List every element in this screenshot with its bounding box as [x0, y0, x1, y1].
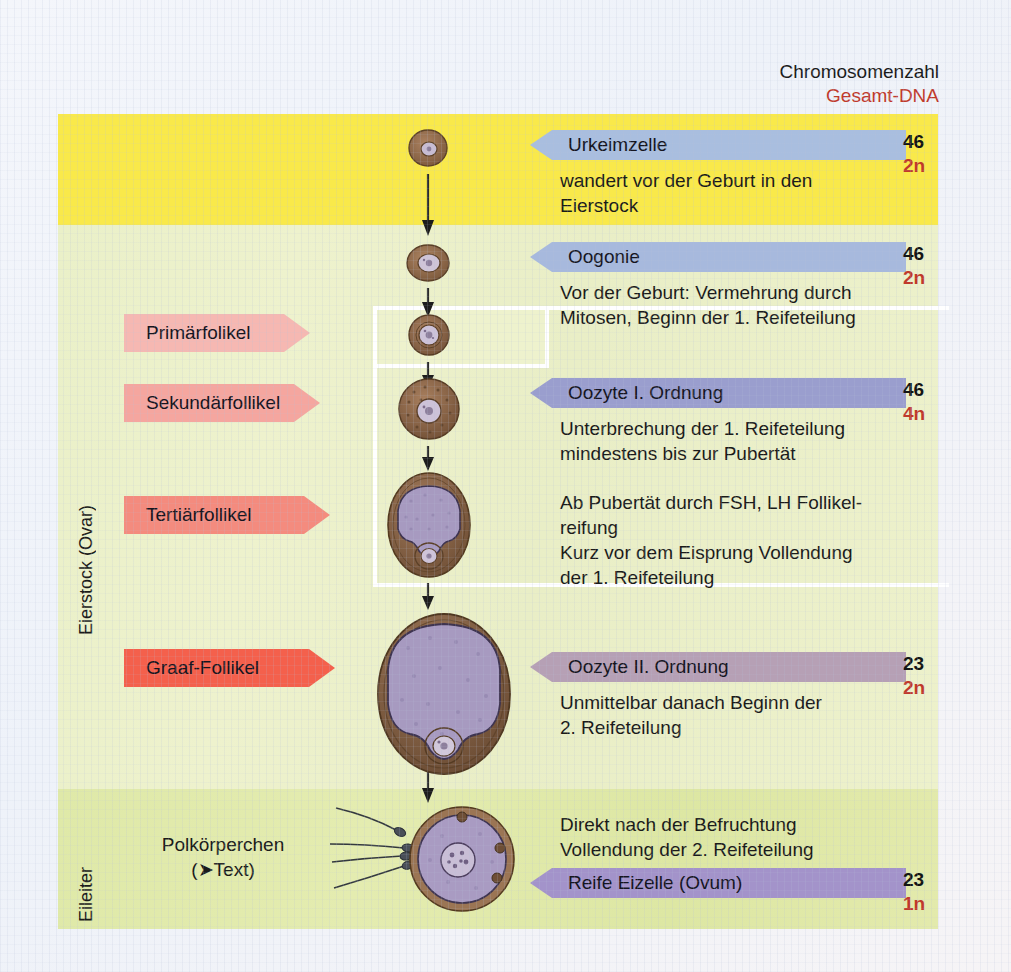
callout-tip-icon: [530, 130, 552, 160]
chromosome-urkeimzelle: 46 2n: [903, 130, 949, 178]
sperm-cells: [330, 808, 404, 888]
cell-reife-eizelle: [330, 800, 520, 926]
follicle-tip-icon: [284, 314, 310, 352]
callout-tip-icon: [530, 378, 552, 408]
description-oozyte-1: Unterbrechung der 1. Reifeteilung mindes…: [560, 416, 950, 466]
callout-oozyte-2[interactable]: Oozyte II. Ordnung: [530, 652, 906, 682]
callout-label: Oozyte I. Ordnung: [568, 382, 723, 404]
oogenesis-diagram: Chromosomenzahl Gesamt-DNA: [0, 0, 1011, 972]
follicle-label: Tertiärfollikel: [146, 504, 252, 526]
follicle-tip-icon: [304, 496, 330, 534]
cell-tertiaerfollikel: [381, 467, 477, 587]
callout-tip-icon: [530, 242, 552, 272]
follicle-primaerfollikel[interactable]: Primärfolikel: [124, 314, 310, 352]
callout-label: Urkeimzelle: [568, 134, 667, 156]
polar-body-label: Polkörperchen: [118, 832, 328, 857]
cell-graaf-follikel: [368, 608, 520, 784]
section-label-ovary: Eierstock (Ovar): [76, 385, 97, 635]
chromosome-oozyte-1: 46 4n: [903, 378, 949, 426]
arrow-urkeimzelle-to-oogonie: [420, 174, 436, 242]
cell-primaerfollikel: [404, 310, 454, 364]
callout-oozyte-1[interactable]: Oozyte I. Ordnung: [530, 378, 906, 408]
chromosome-oozyte-2: 23 2n: [903, 652, 949, 700]
follicle-label: Graaf-Follikel: [146, 657, 259, 679]
follicle-tertiaerfollikel[interactable]: Tertiärfollikel: [124, 496, 330, 534]
cell-urkeimzelle: [404, 124, 452, 176]
callout-ovum[interactable]: Reife Eizelle (Ovum): [530, 868, 906, 898]
follicle-tip-icon: [309, 649, 335, 687]
chromosome-oogonie: 46 2n: [903, 242, 949, 290]
follicle-label: Primärfolikel: [146, 322, 251, 344]
callout-tip-icon: [530, 868, 552, 898]
callout-urkeimzelle[interactable]: Urkeimzelle: [530, 130, 906, 160]
description-follikelreifung: Ab Pubertät durch FSH, LH Follikel- reif…: [560, 490, 960, 590]
dna-amount: 2n: [903, 266, 949, 290]
chromosome-count: 46: [903, 130, 949, 154]
follicle-tip-icon: [294, 384, 320, 422]
callout-oogonie[interactable]: Oogonie: [530, 242, 906, 272]
chromosome-count: 46: [903, 242, 949, 266]
chromosome-count: 23: [903, 652, 949, 676]
dna-amount: 4n: [903, 402, 949, 426]
cell-oogonie: [402, 238, 454, 292]
chromosome-count: 46: [903, 378, 949, 402]
description-ovum: Direkt nach der Befruchtung Vollendung d…: [560, 812, 950, 862]
callout-tip-icon: [530, 652, 552, 682]
callout-label: Oogonie: [568, 246, 640, 268]
legend-total-dna: Gesamt-DNA: [780, 84, 939, 108]
polar-body-text-ref: (➤Text): [118, 857, 328, 882]
chromosome-count: 23: [903, 868, 949, 892]
cell-sekundaerfollikel: [392, 372, 466, 450]
dna-amount: 2n: [903, 676, 949, 700]
maturation-outline-step: [373, 306, 549, 368]
follicle-graaf[interactable]: Graaf-Follikel: [124, 649, 335, 687]
description-urkeimzelle: wandert vor der Geburt in den Eierstock: [560, 168, 940, 218]
dna-amount: 2n: [903, 154, 949, 178]
dna-amount: 1n: [903, 892, 949, 916]
legend-heading: Chromosomenzahl Gesamt-DNA: [780, 60, 939, 108]
callout-label: Oozyte II. Ordnung: [568, 656, 729, 678]
polar-body-caption: Polkörperchen (➤Text): [118, 832, 328, 882]
follicle-label: Sekundärfollikel: [146, 392, 280, 414]
callout-label: Reife Eizelle (Ovum): [568, 872, 742, 894]
chromosome-ovum: 23 1n: [903, 868, 949, 916]
legend-chromosome-count: Chromosomenzahl: [780, 60, 939, 84]
section-label-oviduct: Eileiter: [76, 822, 97, 922]
follicle-sekundaerfollikel[interactable]: Sekundärfollikel: [124, 384, 320, 422]
description-oozyte-2: Unmittelbar danach Beginn der 2. Reifete…: [560, 690, 950, 740]
description-oogonie: Vor der Geburt: Vermehrung durch Mitosen…: [560, 280, 950, 330]
